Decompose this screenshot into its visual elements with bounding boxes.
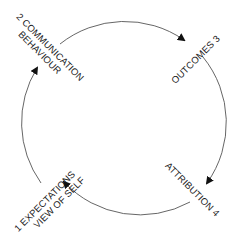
arrow-outcomes-to-attribution bbox=[203, 57, 226, 183]
arrow-attribution-to-expectations bbox=[64, 182, 190, 215]
arrow-expectations-to-communication bbox=[22, 68, 41, 183]
arrow-communication-to-outcomes bbox=[60, 21, 184, 44]
